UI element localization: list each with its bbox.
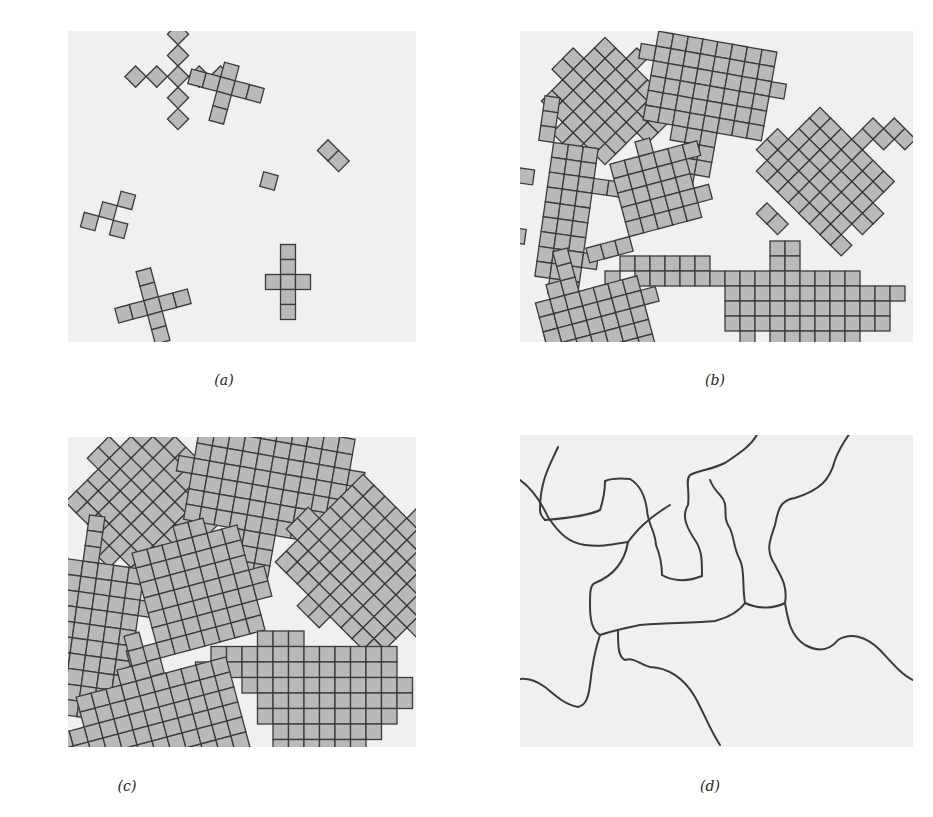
unit-cell [258,662,274,678]
unit-cell [549,157,566,174]
unit-cell [641,286,659,304]
unit-cell [88,624,106,642]
unit-cell [351,693,367,709]
unit-cell [539,232,556,249]
unit-cell [770,271,785,286]
unit-cell [860,316,875,331]
boundary-line [662,575,702,580]
unit-cell [665,256,680,271]
growing-crystals-drawing [520,31,913,342]
unit-cell [109,581,127,599]
unit-cell [146,66,167,87]
unit-cell [545,187,562,204]
unit-cell [875,301,890,316]
unit-cell [785,301,800,316]
unit-cell [573,206,590,223]
unit-cell [273,693,289,709]
unit-cell [747,123,764,140]
unit-cell [556,219,573,236]
unit-cell [785,271,800,286]
crystal [107,260,199,342]
unit-cell [845,316,860,331]
unit-cell [351,740,367,748]
unit-cell [366,724,382,740]
unit-cell [281,260,296,275]
unit-cell [397,693,413,709]
unit-cell [725,271,740,286]
panel-a-nucleation [68,31,416,342]
unit-cell [650,256,665,271]
caption-d: (d) [680,778,740,794]
unit-cell [77,592,95,610]
crystal [317,140,349,172]
unit-cell [680,271,695,286]
unit-cell [830,316,845,331]
unit-cell [304,662,320,678]
panel-d-grain-boundaries [520,435,913,747]
caption-c: (c) [97,778,157,794]
unit-cell [320,647,336,663]
grain-boundaries-drawing [520,435,913,747]
unit-cell [304,709,320,725]
unit-cell [397,678,413,694]
unit-cell [875,316,890,331]
boundary-line [685,435,758,576]
unit-cell [755,286,770,301]
unit-cell [273,678,289,694]
nuclei-drawing [68,31,416,342]
unit-cell [296,275,311,290]
crystal [80,183,135,238]
unit-cell [564,159,581,176]
unit-cell [539,125,556,142]
crystal [266,245,311,320]
unit-cell [335,678,351,694]
unit-cell [520,227,526,244]
unit-cell [815,301,830,316]
unit-cell [273,631,289,647]
unit-cell [639,43,656,60]
unit-cell [85,640,103,658]
unit-cell [335,662,351,678]
unit-cell [785,316,800,331]
boundary-line [520,635,600,707]
unit-cell [112,565,130,583]
unit-cell [755,271,770,286]
unit-cell [581,147,598,164]
unit-cell [320,724,336,740]
unit-cell [740,301,755,316]
unit-cell [289,647,305,663]
unit-cell [845,331,860,342]
unit-cell [99,202,117,220]
unit-cell [258,693,274,709]
boundary-line [590,542,628,635]
unit-cell [289,709,305,725]
unit-cell [755,316,770,331]
unit-cell [579,161,596,178]
unit-cell [725,316,740,331]
unit-cell [335,709,351,725]
unit-cell [320,709,336,725]
unit-cell [785,331,800,342]
unit-cell [304,647,320,663]
unit-cell [79,576,97,594]
boundary-line [540,447,558,520]
unit-cell [304,678,320,694]
boundary-line [769,435,850,603]
unit-cell [800,301,815,316]
unit-cell [105,611,123,629]
unit-cell [694,160,711,177]
boundary-line [710,480,745,603]
unit-cell [366,647,382,663]
unit-cell [830,331,845,342]
unit-cell [541,111,558,128]
unit-cell [560,189,577,206]
unit-cell [335,647,351,663]
unit-cell [562,174,579,191]
unit-cell [87,515,105,533]
unit-cell [94,578,112,596]
unit-cell [125,583,143,601]
unit-cell [109,220,127,238]
unit-cell [558,204,575,221]
unit-cell [258,678,274,694]
unit-cell [167,87,188,108]
